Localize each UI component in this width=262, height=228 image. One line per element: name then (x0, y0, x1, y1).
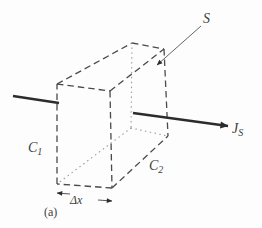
box-edge-front-top (57, 84, 110, 91)
label-delta-x-main: Δx (69, 193, 83, 207)
label-concentration-2-subscript: 2 (158, 164, 163, 175)
label-flux: JS (232, 121, 243, 138)
label-panel-a-main: (a) (44, 205, 57, 219)
label-flux-subscript: S (238, 127, 243, 138)
box-edge-bottom-right (112, 136, 168, 188)
label-panel-a: (a) (44, 205, 57, 219)
box-edge-top-left (57, 43, 132, 84)
diffusion-volume-diagram: SJSC1C2Δx(a) (0, 0, 262, 228)
box-edge-front-bottom (57, 184, 112, 188)
outflux-arrow (133, 113, 228, 126)
label-concentration-1: C1 (28, 140, 42, 157)
label-surface-main: S (203, 11, 210, 26)
box-edge-hidden-bottom-back (131, 128, 168, 136)
influx-line (13, 96, 59, 103)
label-concentration-1-subscript: 1 (37, 146, 42, 157)
label-surface: S (203, 11, 210, 26)
box-edge-front-right (110, 91, 112, 188)
figure-canvas: SJSC1C2Δx(a) (0, 0, 262, 228)
dx-left-arrow (57, 193, 70, 194)
dx-right-arrow (98, 200, 112, 201)
box-edge-top-back (132, 43, 164, 49)
surface-leader-arrow (157, 26, 201, 65)
box-edge-hidden-bottom-left (57, 128, 131, 184)
label-delta-x: Δx (69, 193, 83, 207)
box-edge-hidden-back-left (131, 43, 132, 128)
box-edge-top-right (110, 49, 164, 91)
label-concentration-2: C2 (149, 158, 163, 175)
box-edge-back-right (164, 49, 168, 136)
